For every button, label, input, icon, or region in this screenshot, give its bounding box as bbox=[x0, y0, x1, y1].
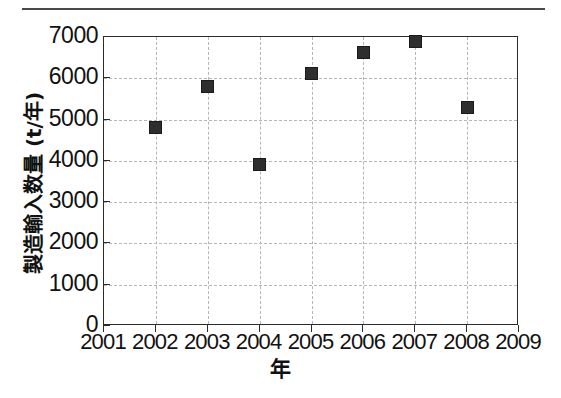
gridline-horizontal bbox=[104, 161, 517, 162]
y-axis-tick bbox=[103, 284, 110, 285]
y-axis-tick bbox=[103, 242, 110, 243]
gridline-horizontal bbox=[104, 285, 517, 286]
y-axis-tick-label: 6000 bbox=[49, 65, 98, 88]
y-axis-tick-label: 4000 bbox=[49, 148, 98, 171]
data-point bbox=[357, 46, 370, 59]
data-point bbox=[149, 121, 162, 134]
x-axis-tick-label: 2009 bbox=[483, 330, 553, 354]
y-axis-tick-label: 1000 bbox=[49, 272, 98, 295]
gridline-horizontal bbox=[104, 243, 517, 244]
top-divider-rule bbox=[22, 8, 545, 10]
gridline-vertical bbox=[415, 37, 416, 324]
gridline-vertical bbox=[467, 37, 468, 324]
y-axis-tick bbox=[103, 119, 110, 120]
y-axis-tick bbox=[103, 160, 110, 161]
y-axis-tick bbox=[103, 77, 110, 78]
plot-area bbox=[103, 36, 518, 325]
x-axis-title: 年 bbox=[0, 358, 561, 381]
gridline-vertical bbox=[260, 37, 261, 324]
y-axis-title: 製造輸入数量 (t/年) bbox=[23, 53, 45, 313]
data-point bbox=[305, 67, 318, 80]
y-axis-tick bbox=[103, 325, 110, 326]
gridline-vertical bbox=[363, 37, 364, 324]
data-point bbox=[461, 101, 474, 114]
chart-figure: 01000200030004000500060007000 2001200220… bbox=[0, 0, 561, 398]
y-axis-tick bbox=[103, 201, 110, 202]
y-axis-tick-label: 3000 bbox=[49, 189, 98, 212]
gridline-vertical bbox=[156, 37, 157, 324]
data-point bbox=[253, 158, 266, 171]
data-point bbox=[201, 80, 214, 93]
y-axis-tick-label: 5000 bbox=[49, 107, 98, 130]
y-axis-tick-label: 7000 bbox=[49, 24, 98, 47]
y-axis-tick-label: 2000 bbox=[49, 230, 98, 253]
gridline-horizontal bbox=[104, 120, 517, 121]
gridline-horizontal bbox=[104, 202, 517, 203]
data-point bbox=[409, 35, 422, 48]
